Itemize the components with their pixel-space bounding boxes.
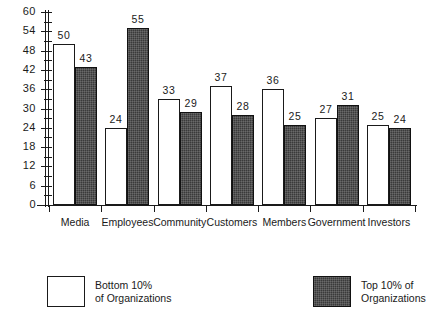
y-axis-tick-label: 42 — [0, 64, 36, 75]
bar — [389, 128, 411, 205]
y-axis-tick-label: 0 — [0, 199, 36, 210]
bar-value-label: 36 — [256, 75, 290, 86]
y-axis-minor-tick — [44, 118, 52, 119]
y-axis-minor-tick — [44, 41, 52, 42]
y-axis-tick-label: 6 — [0, 180, 36, 191]
bar — [53, 44, 75, 205]
bar-value-label: 28 — [226, 101, 260, 112]
x-axis-tick — [154, 205, 155, 212]
x-axis-line — [37, 205, 417, 206]
legend-item-top: Top 10% of Organizations — [313, 276, 426, 307]
y-axis-tick-label: 54 — [0, 25, 36, 36]
y-axis-tick-label: 30 — [0, 103, 36, 114]
bar — [180, 112, 202, 205]
y-axis-minor-tick — [44, 157, 52, 158]
y-axis-minor-tick — [44, 99, 52, 100]
bar — [315, 118, 337, 205]
bar-value-label: 29 — [174, 98, 208, 109]
y-axis-tick-label: 60 — [0, 6, 36, 17]
y-axis-minor-tick — [44, 22, 52, 23]
y-axis-tick — [41, 147, 52, 148]
y-axis-tick — [41, 89, 52, 90]
y-axis-tick — [41, 186, 52, 187]
y-axis-tick — [41, 166, 52, 167]
x-axis-category-label: Investors — [351, 216, 427, 228]
bar — [105, 128, 127, 205]
bar-value-label: 31 — [331, 91, 365, 102]
y-axis-minor-tick — [44, 195, 52, 196]
bar-value-label: 24 — [383, 114, 417, 125]
y-axis-tick — [41, 70, 52, 71]
bar — [158, 99, 180, 205]
y-axis-tick — [41, 109, 52, 110]
bar — [232, 115, 254, 205]
y-axis-minor-tick — [44, 176, 52, 177]
legend-label-top: Top 10% of Organizations — [361, 276, 426, 305]
x-axis-tick — [415, 205, 416, 212]
y-axis-tick-label: 48 — [0, 45, 36, 56]
y-axis-tick-label: 36 — [0, 83, 36, 94]
y-axis-tick-label: 24 — [0, 122, 36, 133]
bar — [337, 105, 359, 205]
x-axis-tick — [310, 205, 311, 212]
bar-chart: 06121824303642485460 MediaEmployeesCommu… — [0, 0, 432, 318]
bar-value-label: 55 — [121, 14, 155, 25]
bar-value-label: 25 — [278, 111, 312, 122]
x-axis-tick — [363, 205, 364, 212]
x-axis-tick — [206, 205, 207, 212]
legend-label-bottom: Bottom 10% of Organizations — [95, 276, 171, 305]
x-axis-tick — [49, 205, 50, 212]
y-axis-tick — [41, 128, 52, 129]
y-axis-tick — [41, 51, 52, 52]
y-axis-tick — [41, 12, 52, 13]
x-axis-tick — [101, 205, 102, 212]
bar — [262, 89, 284, 205]
bar-value-label: 33 — [152, 85, 186, 96]
bar — [284, 125, 306, 205]
y-axis-tick — [41, 205, 52, 206]
legend-swatch-light-icon — [47, 276, 85, 307]
bar — [75, 67, 97, 205]
y-axis-minor-tick — [44, 80, 52, 81]
legend-item-bottom: Bottom 10% of Organizations — [47, 276, 171, 307]
y-axis-minor-tick — [44, 137, 52, 138]
y-axis-minor-tick — [44, 60, 52, 61]
bar-value-label: 50 — [47, 30, 81, 41]
legend-swatch-dark-icon — [313, 276, 351, 307]
x-axis-tick — [258, 205, 259, 212]
y-axis-tick-label: 18 — [0, 141, 36, 152]
bar-value-label: 37 — [204, 72, 238, 83]
bar-value-label: 43 — [69, 53, 103, 64]
bar — [127, 28, 149, 205]
bar — [367, 125, 389, 205]
y-axis-tick-label: 12 — [0, 160, 36, 171]
